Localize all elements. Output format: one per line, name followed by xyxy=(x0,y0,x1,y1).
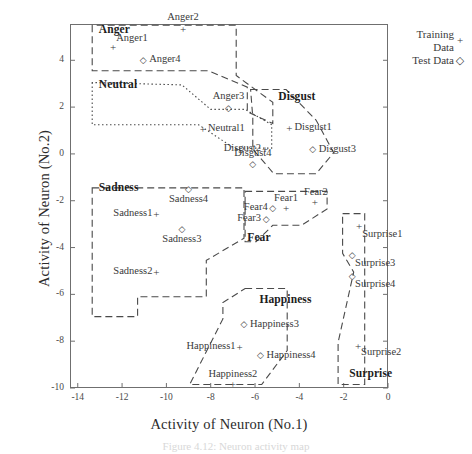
point-label-neutral1: Neutral1 xyxy=(208,122,245,133)
y-tick-label: 4 xyxy=(38,54,64,64)
point-label-sadness4: Sadness4 xyxy=(169,193,208,204)
point-label-anger1: Anger1 xyxy=(116,32,148,43)
plus-marker-icon: + xyxy=(236,343,242,352)
legend-training-label-line1: Training xyxy=(417,28,455,40)
diamond-marker-icon: ◇ xyxy=(140,56,147,65)
point-label-surprise2: Surprise2 xyxy=(361,346,401,357)
point-label-surprise1: Surprise1 xyxy=(362,228,402,239)
point-label-surprise4: Surprise4 xyxy=(355,278,395,289)
x-tick-label: -6 xyxy=(240,392,270,402)
emotion-classification-scatter-figure: Activity of Neuron (No.1) Activity of Ne… xyxy=(0,0,472,454)
point-label-surprise3: Surprise3 xyxy=(355,257,395,268)
diamond-marker-icon: ◇ xyxy=(240,319,247,328)
point-label-happiness2: Happiness2 xyxy=(208,368,257,379)
x-tick-label: 0 xyxy=(373,392,403,402)
y-tick-label: -2 xyxy=(38,195,64,205)
diamond-marker-icon: ◇ xyxy=(454,54,466,67)
y-tick-label: 0 xyxy=(38,148,64,158)
legend-test-label: Test Data xyxy=(396,54,454,67)
point-label-disgust1: Disgust1 xyxy=(294,121,331,132)
region-label-surprise: Surprise xyxy=(349,367,392,379)
region-label-sadness: Sadness xyxy=(99,181,139,193)
point-label-sadness3: Sadness3 xyxy=(162,233,201,244)
x-axis-title: Activity of Neuron (No.1) xyxy=(70,416,388,433)
y-tick-label: -8 xyxy=(38,335,64,345)
diamond-marker-icon: ◇ xyxy=(263,215,270,224)
point-label-sadness2: Sadness2 xyxy=(113,265,152,276)
plus-marker-icon: + xyxy=(286,124,292,133)
plus-marker-icon: + xyxy=(153,268,159,277)
y-tick-label: 2 xyxy=(38,101,64,111)
x-tick-label: -14 xyxy=(63,392,93,402)
legend-item-test-data: Test Data◇ xyxy=(396,53,470,67)
x-tick-label: -12 xyxy=(107,392,137,402)
point-label-anger3: Anger3 xyxy=(213,90,245,101)
figure-caption: Figure 4.12: Neuron activity map xyxy=(0,440,472,452)
diamond-marker-icon: ◇ xyxy=(225,104,232,113)
plus-marker-icon: + xyxy=(454,34,466,47)
point-label-fear2: Fear2 xyxy=(304,186,328,197)
point-label-fear1: Fear1 xyxy=(274,192,298,203)
point-label-fear3: Fear3 xyxy=(237,212,261,223)
plus-marker-icon: + xyxy=(110,43,116,52)
point-label-fear4: Fear4 xyxy=(244,201,268,212)
point-label-disgust3: Disgust3 xyxy=(319,143,356,154)
point-label-happiness3: Happiness3 xyxy=(250,318,299,329)
point-label-sadness1: Sadness1 xyxy=(113,207,152,218)
point-label-disgust4: Disgust4 xyxy=(234,147,271,158)
y-tick-label: -6 xyxy=(38,288,64,298)
x-tick-label: -8 xyxy=(196,392,226,402)
diamond-marker-icon: ◇ xyxy=(309,144,316,153)
y-tick-label: -10 xyxy=(38,382,64,392)
x-tick-label: -10 xyxy=(151,392,181,402)
diamond-marker-icon: ◇ xyxy=(257,351,264,360)
point-label-anger2: Anger2 xyxy=(167,11,199,22)
diamond-marker-icon: ◇ xyxy=(249,160,256,169)
plus-marker-icon: + xyxy=(312,197,318,206)
legend: Training Data + Test Data◇ xyxy=(396,28,470,67)
legend-item-training-data: Training Data + xyxy=(396,28,470,53)
plus-marker-icon: + xyxy=(230,380,236,389)
region-label-disgust: Disgust xyxy=(278,90,315,102)
point-label-anger4: Anger4 xyxy=(149,53,181,64)
x-tick-label: -2 xyxy=(329,392,359,402)
diamond-marker-icon: ◇ xyxy=(269,203,276,212)
region-label-happiness: Happiness xyxy=(259,293,311,305)
region-label-neutral: Neutral xyxy=(99,78,137,90)
plus-marker-icon: + xyxy=(283,203,289,212)
point-label-happiness1: Happiness1 xyxy=(187,340,236,351)
y-tick-label: -4 xyxy=(38,242,64,252)
x-tick-label: -4 xyxy=(284,392,314,402)
plus-marker-icon: + xyxy=(153,209,159,218)
y-axis-title: Activity of Neuron (No.2) xyxy=(36,44,53,374)
legend-training-label-line2: Data xyxy=(433,41,454,53)
plus-marker-icon: + xyxy=(180,24,186,33)
region-label-fear: Fear xyxy=(247,231,270,243)
point-label-happiness4: Happiness4 xyxy=(267,349,316,360)
plus-marker-icon: + xyxy=(200,125,206,134)
